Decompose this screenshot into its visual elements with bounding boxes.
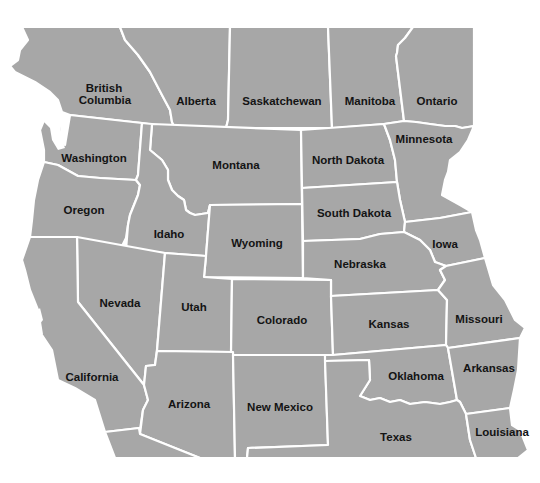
region-colorado[interactable] (231, 279, 333, 355)
region-north-dakota[interactable] (301, 124, 397, 188)
region-wyoming[interactable] (204, 204, 303, 278)
western-north-america-map: BritishColumbia Alberta Saskatchewan Man… (0, 0, 540, 483)
region-louisiana[interactable] (466, 408, 528, 458)
region-kansas[interactable] (331, 290, 447, 355)
region-new-mexico[interactable] (233, 355, 328, 458)
region-missouri[interactable] (438, 258, 525, 348)
region-saskatchewan[interactable] (226, 27, 332, 128)
region-ontario[interactable] (396, 27, 474, 128)
